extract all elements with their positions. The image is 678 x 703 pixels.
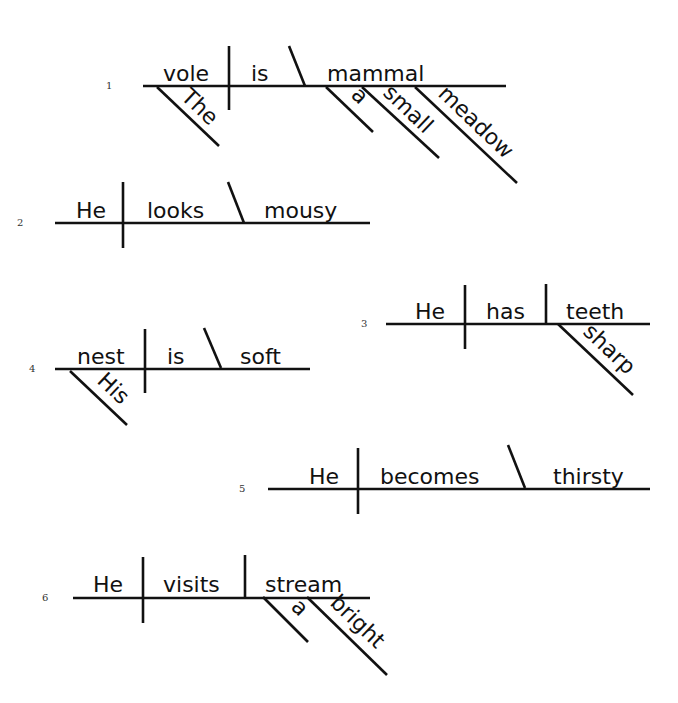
verb-word: visits (163, 572, 220, 597)
complement-word: mousy (264, 198, 337, 223)
verb-word: is (167, 344, 185, 369)
subject-word: He (415, 299, 445, 324)
diagram-number: 4 (29, 363, 35, 374)
modifier-word: The (176, 83, 224, 130)
subject-word: He (76, 198, 106, 223)
diagram-1: 1 vole is mammal The a small meadow (106, 46, 519, 183)
complement-divider (204, 328, 221, 368)
complement-divider (289, 46, 305, 86)
diagram-number: 3 (361, 318, 367, 329)
diagram-number: 1 (106, 80, 112, 91)
complement-divider (228, 182, 244, 223)
diagram-svg: 1 vole is mammal The a small meadow 2 He… (0, 0, 678, 703)
diagram-number: 2 (17, 217, 23, 228)
diagram-2: 2 He looks mousy (17, 182, 370, 248)
diagram-5: 5 He becomes thirsty (239, 445, 650, 514)
complement-word: soft (240, 344, 281, 369)
verb-word: has (486, 299, 525, 324)
subject-word: nest (77, 344, 125, 369)
complement-word: thirsty (553, 464, 624, 489)
sentence-diagrams-canvas: 1 vole is mammal The a small meadow 2 He… (0, 0, 678, 703)
subject-word: vole (163, 61, 209, 86)
diagram-4: 4 nest is soft His (29, 328, 310, 425)
diagram-number: 6 (42, 592, 48, 603)
subject-word: He (93, 572, 123, 597)
verb-word: becomes (380, 464, 479, 489)
diagram-number: 5 (239, 483, 245, 494)
modifier-word: meadow (434, 81, 519, 164)
verb-word: is (251, 61, 269, 86)
complement-word: mammal (327, 61, 424, 86)
verb-word: looks (147, 198, 204, 223)
diagram-3: 3 He has teeth sharp (361, 284, 650, 395)
subject-word: He (309, 464, 339, 489)
complement-divider (508, 445, 525, 488)
modifier-word: sharp (579, 319, 641, 380)
modifier-word: His (93, 368, 135, 410)
diagram-6: 6 He visits stream a bright (42, 555, 390, 675)
